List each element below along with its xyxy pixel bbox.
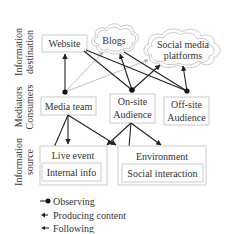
layer-source-line1: Information: [13, 138, 24, 186]
observing-dot-offsite: [184, 88, 189, 93]
observing-dot-onsite: [129, 87, 135, 93]
node-social-media-line2: platforms: [164, 50, 202, 61]
legend-following-arrow-icon: [41, 226, 45, 230]
layer-destination-line1: Information: [13, 28, 24, 76]
edge-onsite-environment: [131, 123, 161, 145]
legend-observing-dot: [46, 199, 51, 204]
legend-following-label: Following: [53, 223, 94, 234]
node-blogs: Blogs: [102, 35, 125, 46]
node-offsite-line1: Off-site: [171, 99, 202, 110]
layer-source-line2: source: [24, 148, 35, 175]
edge-onsite-social: [132, 65, 160, 90]
node-live-event: Live event: [52, 150, 95, 161]
information-flow-diagram: Information destination Mediators Consum…: [0, 0, 238, 233]
node-website: Website: [49, 38, 82, 49]
node-onsite-line2: Audience: [113, 109, 152, 120]
edge-mediateam-environment: [68, 115, 116, 145]
layer-mediators-line2: Consumers: [24, 84, 35, 129]
node-environment: Environment: [136, 151, 188, 162]
edge-offsite-social: [183, 66, 187, 91]
legend-observing-label: Observing: [53, 196, 95, 207]
observing-dot-mediateam: [62, 89, 67, 94]
legend: Observing Producing content Following: [40, 196, 126, 234]
legend-producing-label: Producing content: [53, 210, 126, 221]
node-social-interaction: Social interaction: [127, 168, 197, 179]
node-media-team: Media team: [45, 101, 93, 112]
node-social-media-line1: Social media: [157, 39, 209, 50]
node-onsite-line1: On-site: [118, 96, 148, 107]
legend-producing-arrow-icon: [41, 213, 45, 218]
node-internal-info: Internal info: [47, 167, 97, 178]
layer-label-source: Information source: [13, 138, 35, 186]
node-offsite-line2: Audience: [167, 112, 206, 123]
edge-mediateam-blogs: [65, 52, 103, 92]
layer-label-destination: Information destination: [13, 28, 35, 76]
layer-destination-line2: destination: [24, 30, 35, 74]
layer-label-mediators: Mediators Consumers: [13, 84, 35, 129]
edge-website-onsite: [84, 51, 132, 90]
layer-mediators-line1: Mediators: [13, 87, 24, 128]
edge-onsite-live: [107, 123, 131, 145]
